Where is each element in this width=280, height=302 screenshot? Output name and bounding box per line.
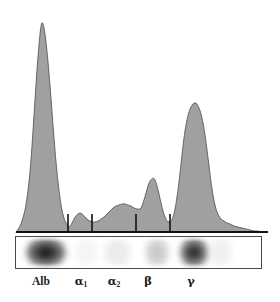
fraction-label-alpha1: α1 <box>75 274 88 290</box>
densitometry-chart <box>0 0 280 240</box>
albumin-band <box>26 236 66 269</box>
fraction-label-beta: β <box>144 274 152 288</box>
beta-band <box>145 236 170 269</box>
gel-strip <box>15 236 262 269</box>
fraction-labels: Albα1α2βγ <box>0 274 280 298</box>
alpha1-band <box>75 236 97 269</box>
electrophoresis-figure: Albα1α2βγ <box>0 0 280 302</box>
fraction-label-text: α <box>75 274 84 288</box>
fraction-label-alb: Alb <box>32 274 50 288</box>
fraction-label-text: Alb <box>32 275 50 287</box>
fraction-label-subscript: 1 <box>84 280 88 289</box>
densitometry-trace-area <box>16 23 268 232</box>
alpha2-band <box>104 236 131 269</box>
fraction-label-alpha2: α2 <box>108 274 121 290</box>
fraction-label-text: α <box>108 274 117 288</box>
gamma-tail-band <box>210 236 232 269</box>
fraction-label-text: β <box>144 274 152 288</box>
fraction-label-subscript: 2 <box>117 280 121 289</box>
gel-strip-bands <box>16 237 261 268</box>
fraction-label-text: γ <box>187 274 195 288</box>
gamma-band <box>180 236 208 269</box>
fraction-label-gamma: γ <box>187 274 195 288</box>
